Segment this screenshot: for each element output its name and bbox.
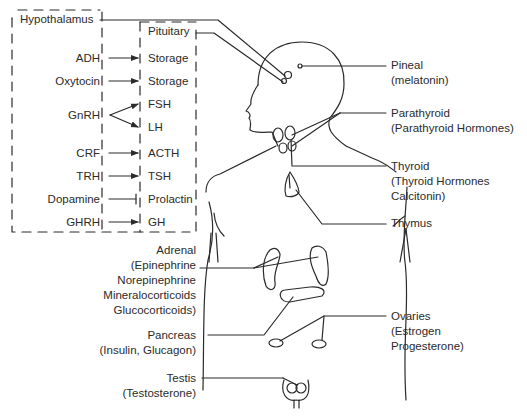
ovaries-hormones-1: (Estrogen: [391, 324, 441, 339]
ghrh-label: GHRH: [66, 215, 100, 230]
adrenal-hormones-4: Glucocorticoids): [114, 303, 196, 318]
pituitary-output-storage-1: Storage: [148, 51, 188, 66]
testis-name: Testis: [167, 371, 196, 386]
trh-label: TRH: [76, 169, 100, 184]
endocrine-diagram: Hypothalamus ADH Oxytocin GnRH CRF TRH D…: [0, 0, 527, 416]
adrenal-hormones-2: Norepinephrine: [117, 273, 196, 288]
thyroid-name: Thyroid: [391, 159, 429, 174]
pineal-hormones: (melatonin): [391, 73, 449, 88]
pituitary-output-acth: ACTH: [148, 146, 179, 161]
crf-label: CRF: [76, 146, 100, 161]
parathyroid-hormones: (Parathyroid Hormones): [391, 121, 514, 136]
pituitary-output-fsh: FSH: [148, 97, 171, 112]
oxytocin-label: Oxytocin: [55, 74, 100, 89]
head-back-outline: [258, 42, 396, 172]
pituitary-output-storage-2: Storage: [148, 74, 188, 89]
ovaries-name: Ovaries: [391, 309, 431, 324]
adrenal-hormones-3: Mineralocorticoids: [103, 288, 196, 303]
ovaries-hormones-2: Progesterone): [391, 339, 464, 354]
pituitary-output-lh: LH: [148, 120, 163, 135]
adrenal-hormones-1: (Epinephrine: [131, 258, 196, 273]
thyroid-hormones-1: (Thyroid Hormones: [391, 174, 489, 189]
parathyroid-name: Parathyroid: [391, 106, 450, 121]
pituitary-label: Pituitary: [148, 24, 190, 39]
thymus-name: Thymus: [391, 216, 432, 231]
adh-label: ADH: [76, 51, 100, 66]
adrenal-name: Adrenal: [156, 243, 196, 258]
hypothalamus-connector: [100, 20, 285, 76]
pancreas-hormones: (Insulin, Glucagon): [99, 343, 196, 358]
dopamine-label: Dopamine: [48, 192, 100, 207]
testis-hormones: (Testosterone): [122, 386, 196, 401]
thyroid-hormones-2: Calcitonin): [391, 189, 445, 204]
gnrh-label: GnRH: [68, 108, 100, 123]
pituitary-output-prolactin: Prolactin: [148, 192, 193, 207]
pineal-name: Pineal: [391, 58, 423, 73]
pituitary-connector: [196, 33, 283, 82]
pancreas-name: Pancreas: [147, 328, 196, 343]
pituitary-output-tsh: TSH: [148, 169, 171, 184]
pituitary-output-gh: GH: [148, 215, 165, 230]
hypothalamus-label: Hypothalamus: [20, 12, 94, 27]
